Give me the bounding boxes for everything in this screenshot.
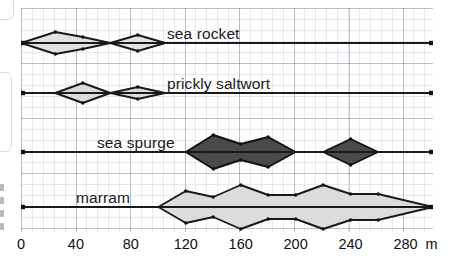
baseline-endcap xyxy=(429,91,433,95)
x-tick-label-280: 280 xyxy=(393,236,417,252)
edge-chrome-top xyxy=(0,0,14,20)
kite-vertex xyxy=(321,227,324,230)
baseline-endcap xyxy=(21,150,25,154)
kite-vertex xyxy=(136,97,139,100)
baseline-endcap xyxy=(21,205,25,209)
kite-diagram-figure: sea rocket prickly saltwort sea spurge m… xyxy=(0,0,454,269)
kite-vertex xyxy=(267,135,270,138)
kite-vertex xyxy=(321,183,324,186)
kite-vertex xyxy=(349,163,352,166)
kite-vertex xyxy=(239,227,242,230)
kite-vertex xyxy=(184,221,187,224)
kite-vertex xyxy=(267,165,270,168)
kite-vertex xyxy=(136,49,139,52)
kite-vertex xyxy=(267,217,270,220)
x-tick-label-240: 240 xyxy=(338,236,362,252)
kite-vertex xyxy=(376,192,379,195)
kite-vertex xyxy=(212,167,215,170)
baseline-endcap xyxy=(21,91,25,95)
kite-vertex xyxy=(349,137,352,140)
x-tick-label-40: 40 xyxy=(68,236,84,252)
baseline-endcap xyxy=(21,41,25,45)
baseline-endcap xyxy=(429,205,433,209)
kite-vertex xyxy=(54,30,57,33)
kite-vertex xyxy=(212,195,215,198)
kite-vertex xyxy=(136,85,139,88)
kite-vertex xyxy=(184,189,187,192)
kite-vertex xyxy=(81,35,84,38)
baseline-endcap xyxy=(429,150,433,154)
edge-chrome-middle xyxy=(0,72,12,152)
kite-vertex xyxy=(239,142,242,145)
kite-vertex xyxy=(349,218,352,221)
series-label-marram: marram xyxy=(76,190,130,206)
x-tick-label-200: 200 xyxy=(284,236,308,252)
kite-vertex xyxy=(81,81,84,84)
series-label-sea-spurge: sea spurge xyxy=(97,135,175,151)
kite-vertex xyxy=(376,218,379,221)
edge-marker-dots xyxy=(0,184,6,230)
x-tick-label-160: 160 xyxy=(229,236,253,252)
kite-vertex xyxy=(212,133,215,136)
kite-vertex xyxy=(349,192,352,195)
kite-vertex xyxy=(239,158,242,161)
kite-vertex xyxy=(54,52,57,55)
x-axis-unit-label: m xyxy=(426,236,438,252)
kite-vertex xyxy=(294,217,297,220)
x-tick-label-0: 0 xyxy=(17,236,25,252)
x-tick-label-120: 120 xyxy=(174,236,198,252)
kite-vertex xyxy=(239,183,242,186)
series-label-prickly-saltwort: prickly saltwort xyxy=(167,76,270,92)
kite-vertex xyxy=(136,33,139,36)
series-label-sea-rocket: sea rocket xyxy=(167,26,240,42)
kite-vertex xyxy=(81,101,84,104)
kite-vertex xyxy=(294,193,297,196)
x-tick-label-80: 80 xyxy=(123,236,139,252)
kite-vertex xyxy=(267,193,270,196)
kite-vertex xyxy=(212,215,215,218)
x-axis: 04080120160200240280m xyxy=(0,236,454,266)
kite-vertex xyxy=(81,47,84,50)
baseline-endcap xyxy=(429,41,433,45)
